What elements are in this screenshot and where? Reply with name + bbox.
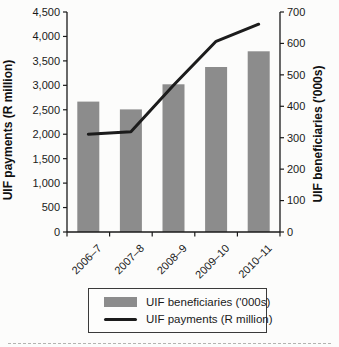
legend-item-beneficiaries: UIF beneficiaries ('000s) xyxy=(104,296,266,308)
right-tick-label: 200 xyxy=(287,163,305,175)
bar xyxy=(205,67,227,232)
x-axis-label: 2008–9 xyxy=(154,242,188,276)
x-axis-label: 2009–10 xyxy=(193,242,232,281)
x-axis-label: 2007–8 xyxy=(112,242,146,276)
left-tick-label: 4,500 xyxy=(32,6,60,18)
left-tick-label: 500 xyxy=(42,201,60,213)
right-tick-label: 600 xyxy=(287,37,305,49)
left-tick-label: 3,000 xyxy=(32,79,60,91)
chart-plot-area: 05001,0001,5002,0002,5003,0003,5004,0004… xyxy=(32,6,305,281)
right-axis-title: UIF beneficiaries ('000s) xyxy=(311,66,325,203)
bar xyxy=(77,102,99,232)
left-tick-label: 1,000 xyxy=(32,177,60,189)
right-tick-label: 300 xyxy=(287,132,305,144)
x-axis-label: 2006–7 xyxy=(69,242,103,276)
right-tick-label: 500 xyxy=(287,69,305,81)
legend-item-payments: UIF payments (R million) xyxy=(104,313,266,325)
left-axis-title: UIF payments (R million) xyxy=(1,60,15,201)
x-axis-label: 2010–11 xyxy=(236,242,274,280)
bar-swatch-icon xyxy=(104,297,137,307)
bar xyxy=(120,109,142,232)
left-tick-label: 2,500 xyxy=(32,104,60,116)
left-tick-label: 0 xyxy=(54,226,60,238)
right-tick-label: 0 xyxy=(287,226,293,238)
legend-label-beneficiaries: UIF beneficiaries ('000s) xyxy=(146,296,270,308)
bar xyxy=(163,84,185,232)
legend-label-payments: UIF payments (R million) xyxy=(146,313,273,325)
left-tick-label: 3,500 xyxy=(32,55,60,67)
legend: UIF beneficiaries ('000s) UIF payments (… xyxy=(88,288,267,333)
left-tick-label: 2,000 xyxy=(32,128,60,140)
bar xyxy=(248,51,270,232)
right-tick-label: 700 xyxy=(287,6,305,18)
uif-combo-chart: 05001,0001,5002,0002,5003,0003,5004,0004… xyxy=(0,0,339,347)
right-tick-label: 100 xyxy=(287,194,305,206)
left-tick-label: 4,000 xyxy=(32,30,60,42)
line-swatch-icon xyxy=(104,318,137,321)
left-tick-label: 1,500 xyxy=(32,153,60,165)
bottom-dashed-divider xyxy=(8,343,331,344)
right-tick-label: 400 xyxy=(287,100,305,112)
